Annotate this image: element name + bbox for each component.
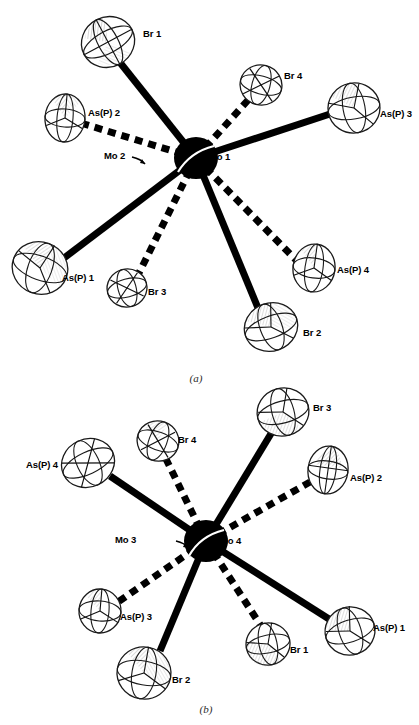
label-asp4-a: As(P) 4 xyxy=(337,265,369,275)
label-asp1-b: As(P) 1 xyxy=(373,623,405,633)
label-mo2-a: Mo 2 xyxy=(104,151,125,161)
label-asp3-b: As(P) 3 xyxy=(120,612,152,622)
label-br4-b: Br 4 xyxy=(178,435,196,445)
panel-a-caption: (a) xyxy=(176,372,216,384)
label-br1-a: Br 1 xyxy=(143,29,161,39)
label-asp2-a: As(P) 2 xyxy=(88,108,120,118)
label-br3-a: Br 3 xyxy=(148,287,166,297)
label-mo3-b: Mo 3 xyxy=(115,535,136,545)
ortep-figure xyxy=(0,0,419,725)
label-mo4-b: Mo 4 xyxy=(220,536,241,546)
label-br2-b: Br 2 xyxy=(172,675,190,685)
label-asp2-b: As(P) 2 xyxy=(350,473,382,483)
label-br4-a: Br 4 xyxy=(284,71,302,81)
label-br3-b: Br 3 xyxy=(313,403,331,413)
label-br2-a: Br 2 xyxy=(303,328,321,338)
label-asp1-a: As(P) 1 xyxy=(62,273,94,283)
label-mo1-a: Mo 1 xyxy=(209,152,230,162)
label-br1-b: Br 1 xyxy=(290,645,308,655)
label-asp3-a: As(P) 3 xyxy=(380,109,412,119)
label-asp4-b: As(P) 4 xyxy=(26,460,58,470)
panel-b-caption: (b) xyxy=(186,703,226,715)
